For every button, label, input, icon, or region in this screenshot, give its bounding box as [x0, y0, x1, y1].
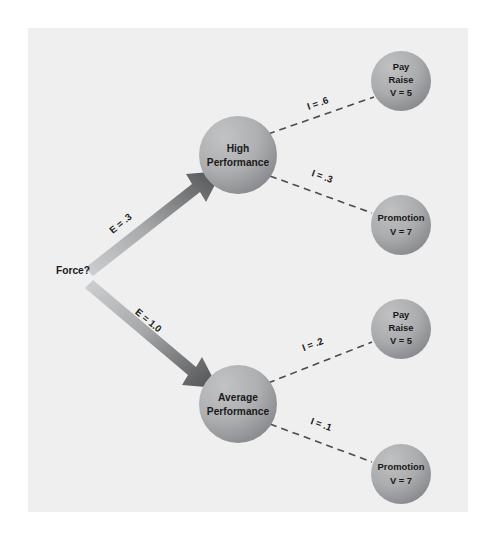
expectancy-arrow-group: [85, 171, 222, 388]
pay-raise-top-line1: Pay: [393, 61, 410, 72]
high-performance-circle[interactable]: [199, 116, 277, 194]
average-performance-label-line1: Average: [218, 392, 258, 403]
high-performance-label-line2: Performance: [207, 157, 270, 168]
expectancy-label-high: E = .3: [107, 211, 134, 235]
high-performance-label-line1: High: [227, 143, 250, 154]
diagram-svg: Force? E = .3 E = 1.0 High Performance A…: [0, 0, 496, 537]
node-promotion-bottom[interactable]: Promotion V = 7: [371, 444, 431, 504]
arrow-force-to-high-performance: [85, 171, 222, 276]
edge-average-to-payraise: [268, 342, 372, 383]
promotion-top-line1: Promotion: [378, 212, 425, 223]
promotion-bottom-line1: Promotion: [378, 461, 425, 472]
instrumentality-edge-group: [268, 97, 374, 462]
promotion-bottom-line2: V = 7: [390, 475, 412, 486]
pay-raise-bottom-line1: Pay: [393, 309, 410, 320]
instrumentality-label-high-pay: I = .6: [306, 94, 330, 111]
pay-raise-top-line3: V = 5: [390, 87, 412, 98]
diagram-canvas: Force? E = .3 E = 1.0 High Performance A…: [0, 0, 496, 537]
arrow-force-to-average-performance: [85, 280, 218, 388]
promotion-bottom-circle[interactable]: [371, 444, 431, 504]
pay-raise-bottom-line3: V = 5: [390, 335, 412, 346]
promotion-top-line2: V = 7: [390, 226, 412, 237]
pay-raise-top-line2: Raise: [388, 74, 413, 85]
average-performance-circle[interactable]: [199, 365, 277, 443]
instrumentality-label-avg-pay: I = .2: [301, 335, 325, 353]
node-average-performance[interactable]: Average Performance: [199, 365, 277, 443]
node-high-performance[interactable]: High Performance: [199, 116, 277, 194]
edge-high-to-promotion: [270, 176, 372, 213]
node-pay-raise-bottom[interactable]: Pay Raise V = 5: [371, 299, 431, 359]
instrumentality-label-high-promo: I = .3: [310, 167, 334, 185]
root-node-label: Force?: [56, 265, 90, 276]
node-pay-raise-top[interactable]: Pay Raise V = 5: [371, 51, 431, 111]
instrumentality-label-avg-promo: I = .1: [309, 415, 334, 433]
node-promotion-top[interactable]: Promotion V = 7: [371, 195, 431, 255]
promotion-top-circle[interactable]: [371, 195, 431, 255]
average-performance-label-line2: Performance: [207, 406, 270, 417]
pay-raise-bottom-line2: Raise: [388, 322, 413, 333]
